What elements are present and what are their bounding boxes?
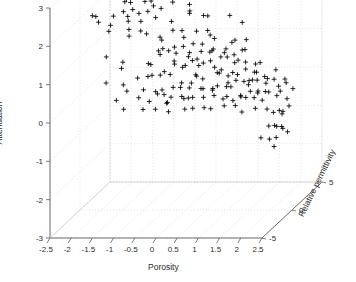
scatter-point xyxy=(121,82,126,87)
scatter-point xyxy=(190,58,195,63)
scatter-point xyxy=(228,84,233,89)
scatter-point xyxy=(200,76,205,81)
scatter-point xyxy=(166,109,171,114)
scatter-point xyxy=(153,107,158,112)
tick-label: 3 xyxy=(39,4,44,13)
scatter-point xyxy=(190,106,195,111)
scatter-point xyxy=(194,29,199,34)
scatter-point xyxy=(114,98,119,103)
axis-lines xyxy=(50,0,322,238)
scatter-point xyxy=(233,38,238,43)
scatter-point xyxy=(137,11,142,16)
x-axis-label: Porosity xyxy=(148,262,179,272)
scatter-point xyxy=(191,41,196,46)
scatter-point xyxy=(179,80,184,85)
scatter-point xyxy=(189,81,194,86)
tick-marks: -2.5-2-1.5-1-0.500.511.522.53210-1-2-350… xyxy=(36,4,334,254)
scatter-point xyxy=(158,73,163,78)
scatter-point xyxy=(283,77,288,82)
scatter-point xyxy=(141,107,146,112)
scatter-point xyxy=(266,90,271,95)
scatter-point xyxy=(260,98,265,103)
tick-label: -0.5 xyxy=(124,245,138,254)
scatter-point xyxy=(149,0,154,3)
scatter-point xyxy=(174,51,179,56)
scatter-point xyxy=(234,78,239,83)
tick-label: 0 xyxy=(39,119,44,128)
scatter-point xyxy=(255,78,260,83)
scatter-point xyxy=(226,73,231,78)
scatter-point xyxy=(274,124,279,129)
tick-label: 1 xyxy=(39,81,44,90)
scatter-point xyxy=(253,62,258,67)
scatter-point xyxy=(144,31,149,36)
scatter-point xyxy=(172,45,177,50)
scatter-point xyxy=(165,100,170,105)
scatter-point xyxy=(276,84,281,89)
tick-label: -2 xyxy=(36,196,44,205)
scatter-point xyxy=(221,97,226,102)
tick-label: -3 xyxy=(36,234,44,243)
scatter-point xyxy=(170,0,175,5)
scatter-point xyxy=(104,81,109,86)
scatter-point xyxy=(104,55,109,60)
scatter-point xyxy=(271,110,276,115)
tick-label: -2.5 xyxy=(39,245,53,254)
scatter-point xyxy=(181,44,186,49)
scatter-point xyxy=(180,28,185,33)
scatter-point xyxy=(201,13,206,18)
figure-3d-scatter: -2.5-2-1.5-1-0.500.511.522.53210-1-2-350… xyxy=(0,0,356,282)
scatter-point xyxy=(274,135,279,140)
scatter-point xyxy=(187,86,192,91)
tick-label: -2 xyxy=(64,245,72,254)
tick-label: -1 xyxy=(106,245,114,254)
scatter-point xyxy=(272,77,277,82)
scatter-point xyxy=(240,48,245,53)
scatter-point xyxy=(162,92,167,97)
scatter-point xyxy=(178,85,183,90)
scatter-point xyxy=(267,137,272,142)
scatter-point xyxy=(246,82,251,87)
scatter-point xyxy=(280,111,285,116)
scatter-point xyxy=(242,79,247,84)
scatter-point xyxy=(96,20,101,25)
scatter-point xyxy=(264,81,269,86)
scatter-point xyxy=(179,94,184,99)
scatter-point xyxy=(125,14,130,19)
scatter-point xyxy=(259,135,264,140)
tick-label: -1.5 xyxy=(82,245,96,254)
scatter-point xyxy=(128,0,133,5)
scatter-point xyxy=(171,85,176,90)
scatter-point xyxy=(186,54,191,59)
scatter-point xyxy=(227,13,232,18)
scatter-point xyxy=(160,46,165,51)
scatter-point xyxy=(127,34,132,39)
scatter-point xyxy=(244,37,249,42)
scatter-point xyxy=(199,49,204,54)
scatter-point xyxy=(108,23,113,28)
scatter-point xyxy=(148,62,153,67)
y-axis-label: Attenuation xyxy=(0,101,4,144)
scatter-point xyxy=(212,65,217,70)
scatter-point xyxy=(121,107,126,112)
scatter-point xyxy=(222,103,227,108)
grid-lines xyxy=(50,0,322,238)
scatter-point xyxy=(243,47,248,52)
scatter-point xyxy=(202,105,207,110)
scatter-point xyxy=(230,70,235,75)
tick-label: 0.5 xyxy=(168,245,180,254)
scatter-point xyxy=(145,9,150,14)
scatter-point xyxy=(200,42,205,47)
scatter-point xyxy=(274,93,279,98)
scatter-point xyxy=(186,96,191,101)
scatter-point xyxy=(136,95,141,100)
scatter-point xyxy=(187,2,192,7)
scatter-point xyxy=(273,67,278,72)
scatter-point xyxy=(285,129,290,134)
scatter-point xyxy=(190,95,195,100)
scatter-point xyxy=(218,55,223,60)
scatter-point xyxy=(287,104,292,109)
scatter-point xyxy=(172,59,177,64)
scatter-point xyxy=(243,95,248,100)
scatter-point xyxy=(93,14,98,19)
